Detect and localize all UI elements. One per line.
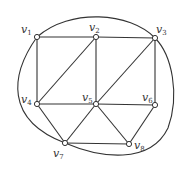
- vertex-v8: [126, 141, 131, 146]
- vertex-v4: [34, 101, 39, 106]
- edge-v5-v7: [65, 104, 96, 143]
- vertex-label-v2: v2: [89, 21, 100, 35]
- edge-v7-v8: [65, 143, 129, 144]
- vertex-label-v5: v5: [82, 91, 93, 105]
- vertex-v1: [34, 34, 39, 39]
- vertex-label-v1: v1: [21, 23, 32, 37]
- vertex-label-v6: v6: [142, 91, 153, 105]
- edge-v6-v8: [129, 105, 155, 144]
- vertex-v2: [93, 34, 98, 39]
- graph-diagram: v1v2v3v4v5v6v7v8: [0, 0, 183, 176]
- vertex-labels: v1v2v3v4v5v6v7v8: [21, 21, 167, 161]
- vertex-label-v8: v8: [134, 139, 145, 153]
- edge-v5-v8: [96, 104, 129, 144]
- vertex-v6: [152, 102, 157, 107]
- vertex-label-v7: v7: [53, 147, 64, 161]
- vertex-v7: [62, 140, 67, 145]
- curve-edge-v1-v7: [18, 37, 65, 143]
- vertex-label-v4: v4: [21, 93, 32, 107]
- edge-v5-v6: [96, 104, 155, 105]
- vertex-v5: [93, 101, 98, 106]
- vertex-label-v3: v3: [156, 23, 167, 37]
- vertex-v3: [152, 35, 157, 40]
- straight-edges: [37, 37, 155, 144]
- edge-v2-v3: [96, 37, 155, 38]
